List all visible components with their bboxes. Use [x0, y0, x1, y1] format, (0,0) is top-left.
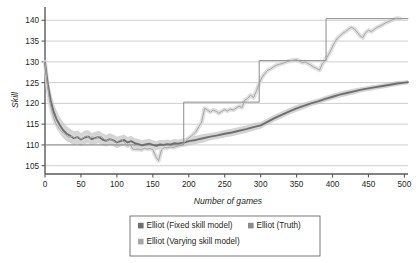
- y-tick-label-120: 120: [25, 99, 39, 108]
- chart-figure: 105110115120125130135140 050100150200250…: [0, 0, 416, 263]
- y-tick-label-105: 105: [25, 162, 39, 171]
- x-axis-title: Number of games: [194, 196, 263, 206]
- x-tick-label-450: 450: [362, 180, 376, 189]
- legend-label-2: Elliot (Varying skill model): [147, 237, 240, 246]
- y-tick-label-125: 125: [25, 79, 39, 88]
- x-tick-label-250: 250: [218, 180, 232, 189]
- x-tick-label-100: 100: [110, 180, 124, 189]
- legend-entry-2[interactable]: Elliot (Varying skill model): [138, 237, 240, 246]
- legend-swatch-icon-1: [248, 223, 254, 229]
- x-tick-label-200: 200: [182, 180, 196, 189]
- legend-entry-1[interactable]: Elliot (Truth): [248, 221, 301, 230]
- legend-entry-0[interactable]: Elliot (Fixed skill model): [138, 221, 233, 230]
- legend-label-0: Elliot (Fixed skill model): [147, 221, 233, 230]
- x-tick-label-300: 300: [254, 180, 268, 189]
- legend-swatch-icon-2: [138, 239, 144, 245]
- x-tick-label-150: 150: [146, 180, 160, 189]
- x-tick-label-0: 0: [43, 180, 48, 189]
- y-tick-label-130: 130: [25, 58, 39, 67]
- chart-legend: Elliot (Fixed skill model)Elliot (Truth)…: [130, 216, 320, 256]
- y-axis-title: Skill: [10, 91, 20, 108]
- x-tick-label-50: 50: [76, 180, 86, 189]
- legend-swatch-icon-0: [138, 223, 144, 229]
- x-tick-label-500: 500: [398, 180, 412, 189]
- y-tick-label-140: 140: [25, 16, 39, 25]
- y-tick-label-115: 115: [26, 120, 39, 129]
- legend-label-1: Elliot (Truth): [257, 221, 302, 230]
- y-tick-label-135: 135: [25, 37, 39, 46]
- x-tick-label-350: 350: [290, 180, 304, 189]
- chart-canvas: 105110115120125130135140 050100150200250…: [0, 0, 416, 263]
- x-tick-label-400: 400: [326, 180, 340, 189]
- y-tick-label-110: 110: [26, 141, 39, 150]
